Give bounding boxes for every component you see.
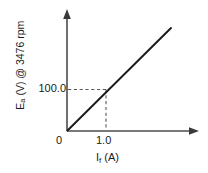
magnetization-curve-figure: 100.0 0 1.0 If (A) Ea (V) @ 3476 rpm (0, 0, 208, 173)
y-axis-title-subscript: a (18, 99, 27, 103)
x-axis-title: If (A) (96, 152, 119, 163)
y-axis-title-symbol: E (14, 103, 26, 110)
y-axis-title-unit: (V) @ 3476 rpm (14, 21, 26, 99)
data-series-line (68, 28, 172, 131)
x-axis-arrow-icon (189, 127, 199, 135)
x-tick-label-one: 1.0 (96, 135, 111, 146)
y-tick-label-100: 100.0 (30, 83, 66, 94)
y-axis-title: Ea (V) @ 3476 rpm (15, 7, 26, 123)
y-axis-arrow-icon (63, 9, 71, 19)
x-tick-label-origin: 0 (56, 135, 62, 146)
x-axis-title-unit: (A) (101, 151, 119, 163)
